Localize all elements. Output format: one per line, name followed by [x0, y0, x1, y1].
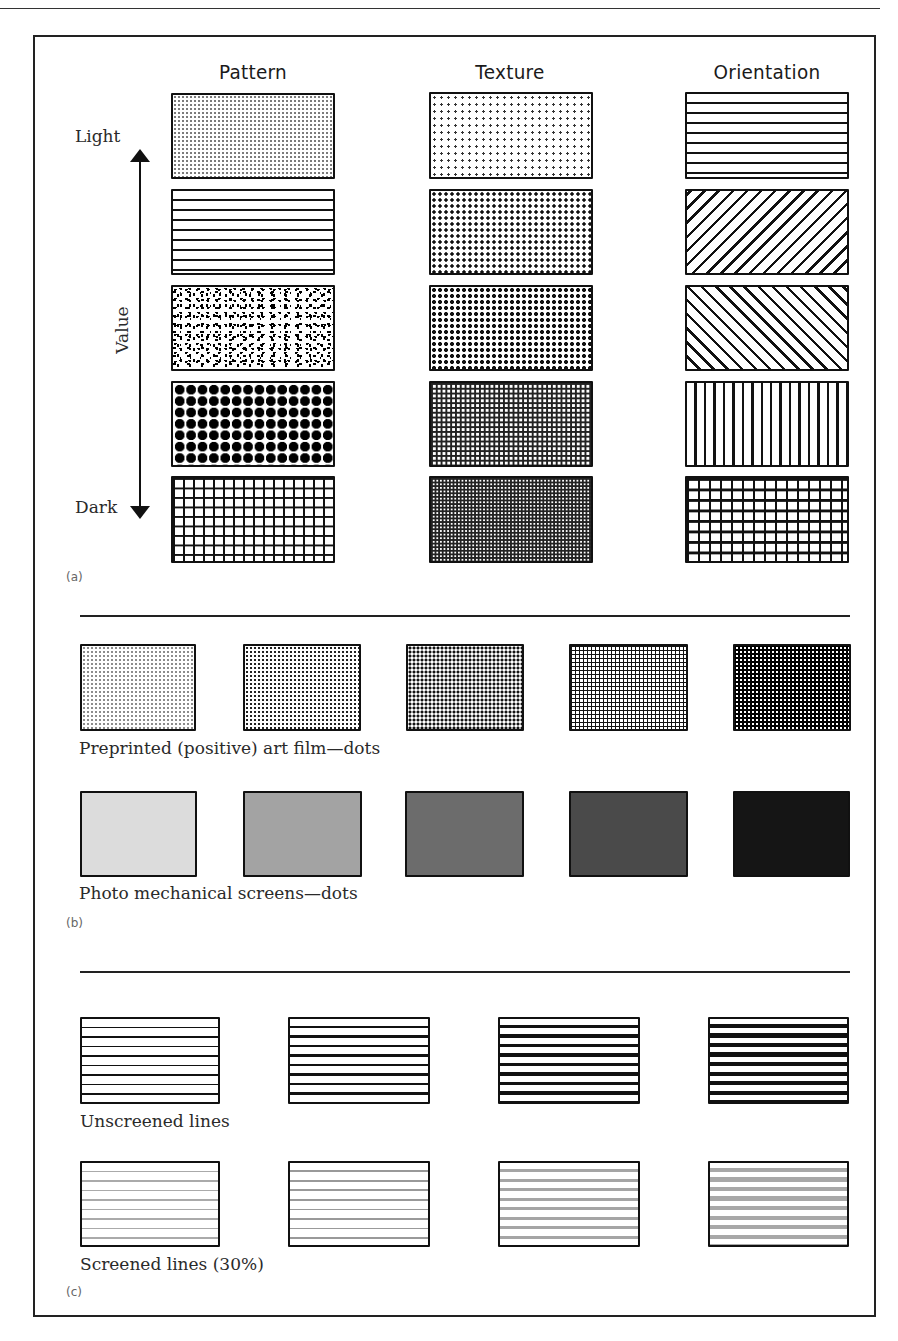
- section-divider-2: [80, 971, 850, 973]
- swatch-photoscreen-4: [569, 791, 688, 877]
- swatch-artfilm-1: [80, 644, 196, 731]
- swatch-unscreened-3: [498, 1017, 640, 1104]
- swatch-pattern-1: [171, 93, 335, 179]
- swatch-pattern-2: [171, 189, 335, 275]
- swatch-texture-4: [429, 381, 593, 467]
- column-header-orientation: Orientation: [675, 60, 859, 84]
- section-tag-a: (a): [66, 570, 83, 584]
- swatch-orientation-1: [685, 92, 849, 179]
- column-header-texture: Texture: [418, 60, 602, 84]
- swatch-screened-2: [288, 1161, 430, 1247]
- axis-label-dark: Dark: [75, 497, 117, 517]
- section-tag-c: (c): [66, 1285, 82, 1299]
- value-axis-arrow-icon: [128, 148, 152, 520]
- swatch-screened-3: [498, 1161, 640, 1247]
- axis-label-light: Light: [75, 126, 120, 146]
- swatch-orientation-4: [685, 381, 849, 467]
- swatch-pattern-4: [171, 381, 335, 467]
- swatch-artfilm-3: [406, 644, 524, 731]
- swatch-texture-5: [429, 476, 593, 563]
- swatch-texture-3: [429, 285, 593, 371]
- swatch-orientation-5: [685, 476, 849, 563]
- swatch-artfilm-4: [569, 644, 688, 731]
- swatch-screened-4: [708, 1161, 849, 1247]
- swatch-unscreened-2: [288, 1017, 430, 1104]
- swatch-artfilm-2: [243, 644, 361, 731]
- caption-art-film: Preprinted (positive) art film—dots: [79, 738, 380, 758]
- swatch-photoscreen-5: [733, 791, 850, 877]
- swatch-photoscreen-3: [405, 791, 524, 877]
- swatch-texture-1: [429, 92, 593, 179]
- swatch-texture-2: [429, 189, 593, 275]
- swatch-artfilm-5: [733, 644, 851, 731]
- section-divider-1: [80, 615, 850, 617]
- swatch-photoscreen-1: [80, 791, 197, 877]
- swatch-unscreened-4: [708, 1017, 849, 1104]
- swatch-orientation-2: [685, 189, 849, 275]
- section-tag-b: (b): [66, 916, 83, 930]
- caption-unscreened: Unscreened lines: [80, 1111, 230, 1131]
- column-header-pattern: Pattern: [161, 60, 345, 84]
- swatch-pattern-5: [171, 476, 335, 563]
- swatch-photoscreen-2: [243, 791, 362, 877]
- swatch-screened-1: [80, 1161, 220, 1247]
- page-top-rule: [0, 8, 880, 9]
- swatch-unscreened-1: [80, 1017, 220, 1104]
- caption-photo-screens: Photo mechanical screens—dots: [79, 883, 358, 903]
- caption-screened: Screened lines (30%): [80, 1254, 264, 1274]
- swatch-pattern-3: [171, 285, 335, 371]
- swatch-orientation-3: [685, 285, 849, 371]
